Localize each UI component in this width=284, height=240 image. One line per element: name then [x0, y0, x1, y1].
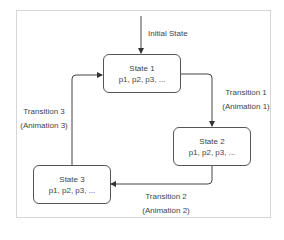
state-3-node[interactable]: State 3 p1, p2, p3, ...	[33, 165, 111, 204]
transition-1-animation-label: (Animation 1)	[222, 102, 270, 112]
state-3-params: p1, p2, p3, ...	[49, 185, 96, 196]
state-2-params: p1, p2, p3, ...	[189, 147, 236, 158]
state-2-node[interactable]: State 2 p1, p2, p3, ...	[173, 127, 251, 166]
transition-3-arrow	[72, 75, 102, 165]
initial-state-label: Initial State	[148, 29, 188, 39]
transition-2-label: Transition 2	[145, 192, 187, 202]
transition-2-animation-label: (Animation 2)	[142, 206, 190, 216]
state-1-node[interactable]: State 1 p1, p2, p3, ...	[103, 54, 181, 93]
state-3-title: State 3	[59, 174, 84, 185]
transition-1-label: Transition 1	[225, 88, 267, 98]
transition-3-animation-label: (Animation 3)	[20, 121, 68, 131]
transition-1-arrow	[181, 74, 212, 126]
state-1-params: p1, p2, p3, ...	[119, 74, 166, 85]
state-2-title: State 2	[199, 136, 224, 147]
state-1-title: State 1	[129, 63, 154, 74]
transition-2-arrow	[111, 165, 212, 184]
transition-3-label: Transition 3	[23, 107, 65, 117]
